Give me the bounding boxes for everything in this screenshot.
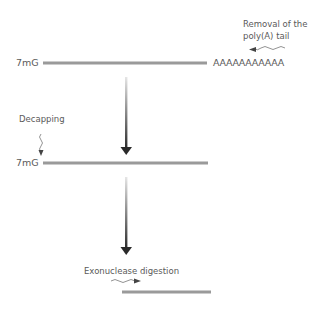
- polya-tail-label: AAAAAAAAAAA: [213, 57, 284, 68]
- deadenylation-label-line1: Removal of the: [243, 19, 307, 30]
- diagram-canvas: [0, 0, 317, 310]
- deadenylation-arrow-icon: [249, 47, 285, 53]
- decapping-label: Decapping: [19, 114, 65, 125]
- cap-label-stage1: 7mG: [16, 57, 39, 68]
- cap-label-stage2: 7mG: [16, 157, 39, 168]
- down-arrow-icon: [121, 177, 133, 255]
- down-arrow-icon: [121, 77, 133, 155]
- decapping-arrow-icon: [39, 134, 44, 156]
- exonuclease-arrow-icon: [111, 279, 141, 284]
- exonuclease-label: Exonuclease digestion: [84, 266, 179, 277]
- deadenylation-label-line2: poly(A) tail: [243, 31, 289, 42]
